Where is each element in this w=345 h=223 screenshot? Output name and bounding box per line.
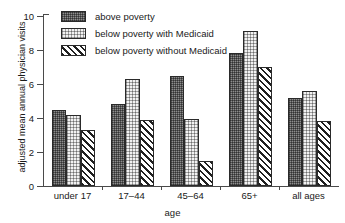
bar [243, 31, 258, 186]
bar [199, 161, 214, 187]
x-axis-label: age [0, 207, 345, 218]
x-axis-tick-label: under 17 [43, 190, 102, 201]
bar [170, 76, 185, 187]
legend-label: below poverty with Medicaid [95, 28, 214, 39]
y-axis-tick-label: 10 [20, 16, 34, 17]
bar-chart: adjusted mean annual physician visits 02… [0, 0, 345, 223]
x-axis-group-separator [279, 186, 280, 190]
x-axis-tick-label: 65+ [220, 190, 279, 201]
bar [52, 110, 67, 186]
legend: above poverty below poverty with Medicai… [61, 8, 227, 59]
y-axis-label: adjusted mean annual physician visits [17, 12, 27, 182]
legend-swatch-above-poverty [61, 11, 86, 22]
legend-swatch-below-poverty-without-medicaid [61, 45, 86, 56]
x-axis-group-separator [102, 186, 103, 190]
y-axis-tick-label: 0 [20, 186, 34, 187]
bar [66, 115, 81, 186]
bar [111, 104, 126, 186]
x-axis-group-separator [161, 186, 162, 190]
bar [184, 119, 199, 186]
bar [288, 98, 303, 186]
legend-label: below poverty without Medicaid [95, 45, 227, 56]
x-axis-tick-label: all ages [279, 190, 338, 201]
legend-label: above poverty [95, 11, 155, 22]
bar [317, 121, 332, 186]
y-axis-top-tick [43, 14, 49, 15]
bar [140, 120, 155, 186]
bar [125, 79, 140, 186]
x-axis-group-separator [220, 186, 221, 190]
legend-item: above poverty [61, 8, 227, 24]
y-axis-tick-label: 2 [20, 152, 34, 153]
bar [258, 67, 273, 186]
y-axis-tick-label: 8 [20, 50, 34, 51]
bar [81, 130, 96, 186]
x-axis-tick-label: 17–44 [102, 190, 161, 201]
y-axis-tick-label: 4 [20, 118, 34, 119]
y-axis-tick-label: 6 [20, 84, 34, 85]
legend-item: below poverty with Medicaid [61, 25, 227, 41]
legend-swatch-below-poverty-with-medicaid [61, 28, 86, 39]
legend-item: below poverty without Medicaid [61, 42, 227, 58]
bar [302, 91, 317, 186]
bar [229, 53, 244, 186]
x-axis-tick-label: 45–64 [161, 190, 220, 201]
